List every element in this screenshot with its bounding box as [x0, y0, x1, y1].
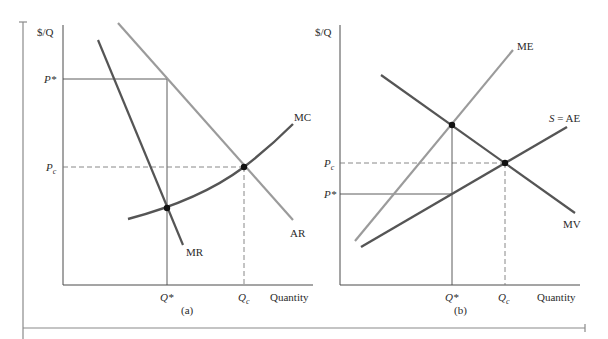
panel-a-mr-curve [98, 40, 183, 245]
panel-b-me-label: ME [517, 40, 534, 52]
panel-a-mr-mc-point [164, 205, 170, 211]
panel-a-mc-label: MC [294, 111, 311, 123]
panel-a-p-star-label: P* [43, 73, 57, 85]
monopoly-monopsony-figure: $/Q P* Pc MC AR MR Q* Qc Quantity (a) $/… [0, 0, 608, 339]
panel-b-p-star-label: P* [323, 188, 337, 200]
panel-b-x-axis-label: Quantity [537, 291, 576, 303]
panel-b-q-c-label: Qc [498, 291, 510, 306]
panel-b-s-ae-curve [361, 127, 567, 247]
panel-b-y-axis-label: $/Q [315, 26, 332, 38]
panel-a-mr-label: MR [186, 246, 204, 258]
panel-b-caption: (b) [454, 304, 467, 317]
panel-b: $/Q ME S = AE MV Pc P* Q* Qc Quantity (b… [315, 25, 581, 317]
panel-a-caption: (a) [181, 304, 194, 317]
panel-b-me-curve [355, 50, 513, 241]
panel-b-mv-label: MV [563, 218, 581, 230]
panel-b-s-ae-label: S = AE [549, 112, 581, 124]
panel-a-p-c-label: Pc [45, 161, 57, 176]
panel-a-q-c-label: Qc [238, 291, 250, 306]
panel-a-x-axis-label: Quantity [270, 291, 309, 303]
panel-a-ar-label: AR [290, 227, 306, 239]
panel-b-me-mv-point [449, 122, 455, 128]
panel-b-q-star-label: Q* [445, 291, 459, 303]
panel-a-y-axis-label: $/Q [37, 26, 54, 38]
panel-a-q-star-label: Q* [160, 291, 174, 303]
panel-b-p-c-label: Pc [323, 157, 335, 172]
panel-a: $/Q P* Pc MC AR MR Q* Qc Quantity (a) [37, 23, 313, 317]
panel-b-ae-mv-point [502, 160, 508, 166]
panel-a-ar-mc-point [241, 164, 247, 170]
panel-b-mv-curve [381, 75, 575, 213]
